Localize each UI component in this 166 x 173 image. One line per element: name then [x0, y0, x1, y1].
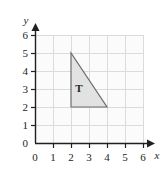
y-tick-label-1: 1	[23, 119, 29, 131]
coordinate-grid-figure: 0 1 2 3 4 5 6 0 1 2 3 4 5 6 x y T	[0, 0, 166, 173]
y-tick-label-5: 5	[23, 47, 29, 59]
y-tick-label-0: 0	[23, 137, 29, 149]
x-tick-label-6: 6	[140, 151, 146, 163]
x-tick-label-4: 4	[104, 151, 110, 163]
y-axis-arrowhead	[32, 23, 40, 31]
y-tick-label-2: 2	[23, 101, 29, 113]
x-tick-label-1: 1	[50, 151, 56, 163]
x-tick-label-2: 2	[68, 151, 74, 163]
y-tick-label-6: 6	[23, 29, 29, 41]
y-tick-label-4: 4	[23, 65, 29, 77]
x-tick-label-0: 0	[32, 151, 38, 163]
x-tick-label-5: 5	[122, 151, 128, 163]
x-tick-label-3: 3	[86, 151, 92, 163]
y-axis-label: y	[23, 14, 29, 26]
y-tick-label-3: 3	[23, 83, 29, 95]
shape-label-t: T	[75, 82, 83, 94]
plot-area: 0 1 2 3 4 5 6 0 1 2 3 4 5 6 x y T	[0, 0, 166, 173]
x-axis-arrowhead	[147, 140, 155, 148]
x-axis-label: x	[154, 149, 160, 161]
